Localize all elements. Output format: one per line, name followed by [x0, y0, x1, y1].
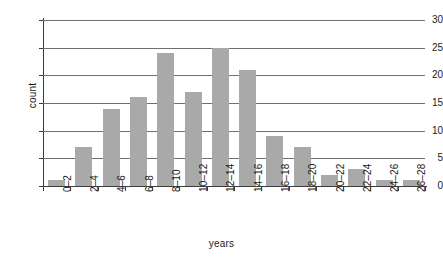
bar-series: [43, 20, 425, 186]
x-tick-mark: [125, 187, 126, 191]
x-tick-mark: [316, 187, 317, 191]
x-tick-mark: [370, 187, 371, 191]
plot-area: [43, 20, 425, 186]
x-tick-mark: [234, 187, 235, 191]
x-tick-mark: [207, 187, 208, 191]
x-tick-mark: [152, 187, 153, 191]
x-tick-mark: [343, 187, 344, 191]
x-tick-mark: [43, 187, 44, 191]
x-tick-mark: [398, 187, 399, 191]
x-tick-mark: [70, 187, 71, 191]
x-tick-mark: [98, 187, 99, 191]
x-tick-mark: [179, 187, 180, 191]
bar: [157, 53, 174, 186]
x-tick-mark: [425, 187, 426, 191]
bar: [130, 97, 147, 186]
x-tick-mark: [289, 187, 290, 191]
x-axis-title: years: [0, 238, 443, 249]
histogram-figure: count 051015202530 0–22–44–66–88–1010–12…: [0, 0, 443, 266]
y-axis-title: count: [27, 66, 38, 126]
x-tick-mark: [261, 187, 262, 191]
